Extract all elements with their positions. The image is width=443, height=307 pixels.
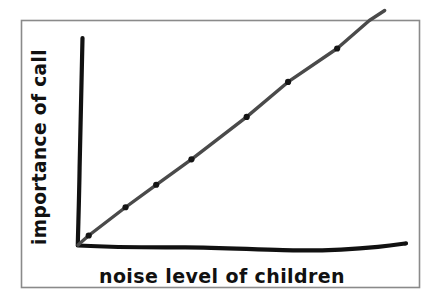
hand-drawn-chart-figure: noise level of children importance of ca…: [0, 0, 443, 307]
data-point-marker: [244, 114, 250, 120]
data-point-marker: [86, 232, 92, 238]
data-point-marker: [285, 79, 291, 85]
chart-canvas: noise level of children importance of ca…: [0, 0, 443, 307]
data-point-marker: [334, 45, 340, 51]
y-axis-label: importance of call: [28, 49, 50, 245]
x-axis-label: noise level of children: [99, 265, 345, 287]
data-point-marker: [153, 182, 159, 188]
data-point-marker: [188, 156, 194, 162]
data-point-marker: [122, 204, 128, 210]
